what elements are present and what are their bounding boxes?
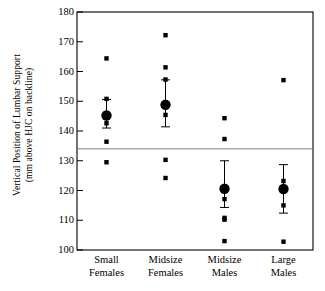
data-point-marker — [281, 179, 285, 183]
x-axis-category-line: Males — [247, 267, 321, 280]
data-point-marker — [222, 137, 226, 141]
data-point-marker — [163, 176, 167, 180]
mean-marker — [219, 184, 229, 194]
data-point-marker — [104, 140, 108, 144]
data-point-marker — [104, 56, 108, 60]
mean-marker — [160, 100, 170, 110]
mean-marker — [278, 184, 288, 194]
data-point-marker — [222, 116, 226, 120]
plot-canvas — [0, 0, 325, 291]
data-point-marker — [222, 217, 226, 221]
data-point-marker — [104, 97, 108, 101]
x-axis-category-4: LargeMales — [247, 254, 321, 279]
data-point-marker — [163, 158, 167, 162]
chart-figure: Vertical Position of Lumbar Support (mm … — [0, 0, 325, 291]
data-point-marker — [163, 33, 167, 37]
data-point-marker — [281, 239, 285, 243]
plot-frame — [77, 12, 313, 250]
mean-marker — [101, 110, 111, 120]
data-point-marker — [163, 113, 167, 117]
data-point-marker — [163, 65, 167, 69]
data-point-marker — [222, 197, 226, 201]
data-point-marker — [104, 121, 108, 125]
data-point-marker — [163, 77, 167, 81]
data-point-marker — [222, 239, 226, 243]
data-point-marker — [281, 78, 285, 82]
x-axis-category-line: Large — [247, 254, 321, 267]
data-point-marker — [104, 160, 108, 164]
data-point-marker — [281, 203, 285, 207]
